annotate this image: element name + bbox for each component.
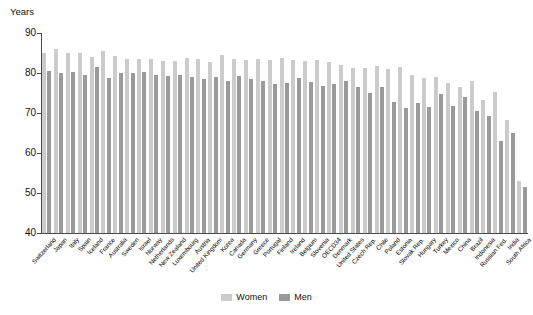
bar-group <box>458 33 468 233</box>
y-axis-title: Years <box>10 6 34 17</box>
bar-women <box>410 75 414 233</box>
bar-women <box>434 77 438 233</box>
bar-men <box>214 77 218 233</box>
bar-men <box>321 86 325 233</box>
bar-women <box>291 60 295 233</box>
bar-men <box>285 83 289 233</box>
bar-group <box>42 33 52 233</box>
bar-women <box>398 67 402 233</box>
bar-group <box>470 33 480 233</box>
bar-men <box>119 73 123 233</box>
bar-women <box>66 53 70 233</box>
bar-men <box>309 82 313 233</box>
bar-men <box>142 72 146 233</box>
bar-women <box>280 58 284 233</box>
bar-group <box>505 33 515 233</box>
bar-women <box>517 181 521 233</box>
bar-men <box>190 77 194 233</box>
bar-women <box>363 68 367 233</box>
bar-group <box>196 33 206 233</box>
legend-label-women: Women <box>236 292 267 302</box>
bar-men <box>332 84 336 233</box>
bar-women <box>375 66 379 233</box>
bar-group <box>101 33 111 233</box>
bar-women <box>173 61 177 233</box>
y-tick-label: 90 <box>10 28 36 38</box>
bar-group <box>232 33 242 233</box>
bar-women <box>220 55 224 233</box>
bar-women <box>505 120 509 233</box>
x-axis-labels: SwitzerlandJapanItalySpainIcelandFranceA… <box>41 236 528 296</box>
bar-women <box>185 58 189 233</box>
bar-men <box>166 76 170 233</box>
bar-women <box>268 60 272 233</box>
bar-group <box>54 33 64 233</box>
bar-group <box>173 33 183 233</box>
bar-women <box>493 92 497 233</box>
bar-women <box>90 57 94 233</box>
bar-women <box>470 81 474 233</box>
bar-men <box>261 81 265 233</box>
bar-women <box>232 59 236 233</box>
bar-men <box>178 75 182 233</box>
bar-women <box>78 53 82 233</box>
bar-men <box>380 87 384 233</box>
bar-women <box>113 56 117 233</box>
bar-women <box>137 59 141 233</box>
bar-women <box>327 62 331 233</box>
bar-group <box>422 33 432 233</box>
life-expectancy-bar-chart: Years 405060708090 SwitzerlandJapanItaly… <box>0 0 533 315</box>
bar-group <box>398 33 408 233</box>
bar-men <box>416 103 420 233</box>
bar-women <box>149 59 153 233</box>
bar-men <box>249 79 253 233</box>
bar-group <box>244 33 254 233</box>
bar-group <box>410 33 420 233</box>
x-axis-line <box>41 233 528 234</box>
bar-men <box>71 72 75 233</box>
bar-men <box>95 67 99 233</box>
bar-men <box>154 75 158 233</box>
y-tick-label: 40 <box>10 228 36 238</box>
plot-area <box>41 33 528 233</box>
bar-men <box>226 81 230 233</box>
bar-group <box>375 33 385 233</box>
bar-women <box>101 51 105 233</box>
bar-group <box>291 33 301 233</box>
bar-group <box>315 33 325 233</box>
bar-group <box>351 33 361 233</box>
legend-swatch-women-icon <box>221 294 232 301</box>
bar-men <box>237 76 241 233</box>
bar-group <box>149 33 159 233</box>
bar-women <box>458 87 462 233</box>
bar-group <box>303 33 313 233</box>
bar-women <box>351 68 355 233</box>
bar-group <box>256 33 266 233</box>
bar-men <box>499 141 503 233</box>
bar-men <box>475 111 479 233</box>
bar-group <box>280 33 290 233</box>
y-tick-label: 60 <box>10 148 36 158</box>
bar-women <box>386 69 390 233</box>
bar-women <box>125 59 129 233</box>
bar-group <box>446 33 456 233</box>
bar-men <box>368 93 372 233</box>
bar-group <box>339 33 349 233</box>
bar-group <box>386 33 396 233</box>
bar-men <box>487 116 491 233</box>
bar-men <box>439 94 443 233</box>
bar-group <box>90 33 100 233</box>
bar-men <box>344 81 348 233</box>
legend-item-men: Men <box>279 292 312 302</box>
bar-women <box>315 60 319 233</box>
bar-group <box>434 33 444 233</box>
bar-men <box>404 108 408 233</box>
bar-women <box>422 78 426 233</box>
bar-group <box>161 33 171 233</box>
legend-label-men: Men <box>294 292 312 302</box>
bar-men <box>131 73 135 233</box>
bar-women <box>54 49 58 233</box>
legend-item-women: Women <box>221 292 267 302</box>
bar-men <box>356 87 360 233</box>
bar-group <box>493 33 503 233</box>
